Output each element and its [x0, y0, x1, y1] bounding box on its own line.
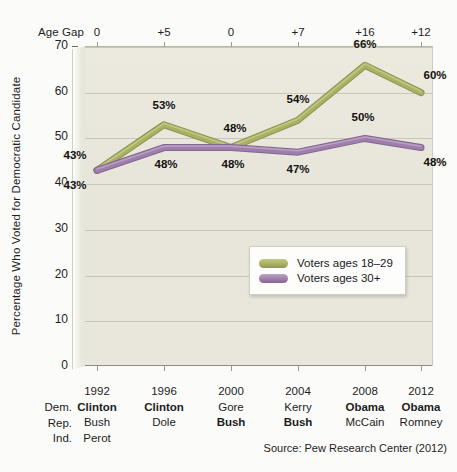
x-column-2004: 2004KerryBush — [261, 384, 335, 446]
chart-figure: Age Gap 0+50+7+16+12 Percentage Who Vote… — [0, 0, 457, 472]
y-tick-30: 30 — [34, 221, 68, 235]
age-gap-value-1992: 0 — [77, 26, 117, 38]
data-label-older-2012: 48% — [413, 156, 457, 168]
age-gap-value-1996: +5 — [144, 26, 184, 38]
x-column-2000: 2000GoreBush — [194, 384, 268, 446]
x-dem-2000: Gore — [194, 400, 268, 416]
x-column-1996: 1996ClintonDole — [127, 384, 201, 446]
x-ind-1992: Perot — [60, 431, 134, 447]
plot-area: 43%53%48%54%66%60%43%48%48%47%50%48% Vot… — [85, 46, 433, 366]
x-column-2012: 2012ObamaRomney — [384, 384, 457, 446]
x-dem-1992: Clinton — [60, 400, 134, 416]
legend-label-older: Voters ages 30+ — [297, 272, 380, 284]
data-label-older-1996: 48% — [144, 158, 188, 170]
age-gap-value-2000: 0 — [211, 26, 251, 38]
x-dem-1996: Clinton — [127, 400, 201, 416]
data-label-older-1992: 43% — [53, 179, 97, 191]
age-gap-value-2004: +7 — [278, 26, 318, 38]
x-dem-2004: Kerry — [261, 400, 335, 416]
y-tick-0: 0 — [34, 358, 68, 372]
x-rep-2012: Romney — [384, 415, 457, 431]
y-tick-70: 70 — [34, 38, 68, 52]
source-note: Source: Pew Research Center (2012) — [264, 442, 447, 454]
y-tick-60: 60 — [34, 84, 68, 98]
data-label-young-2004: 54% — [276, 93, 320, 105]
x-year-2012: 2012 — [384, 384, 457, 400]
legend-item-older[interactable]: Voters ages 30+ — [259, 272, 393, 284]
data-label-young-2008: 66% — [343, 38, 387, 50]
age-gap-value-2008: +16 — [345, 26, 385, 38]
x-column-1992: 1992ClintonBushPerot — [60, 384, 134, 446]
x-year-2000: 2000 — [194, 384, 268, 400]
legend-swatch-older — [259, 274, 288, 283]
data-label-young-2012: 60% — [413, 69, 457, 81]
data-label-young-1996: 53% — [142, 99, 186, 111]
x-rep-2000: Bush — [194, 415, 268, 431]
data-label-young-1992: 43% — [53, 149, 97, 161]
x-year-1996: 1996 — [127, 384, 201, 400]
y-axis-title: Percentage Who Voted for Democratic Cand… — [10, 56, 22, 356]
legend: Voters ages 18–29 Voters ages 30+ — [249, 246, 406, 295]
x-year-2004: 2004 — [261, 384, 335, 400]
y-tick-20: 20 — [34, 267, 68, 281]
x-ind-1996 — [127, 431, 201, 447]
data-label-older-2008: 50% — [341, 111, 385, 123]
data-label-older-2000: 48% — [211, 158, 255, 170]
x-dem-2012: Obama — [384, 400, 457, 416]
plot-shell: 43%53%48%54%66%60%43%48%48%47%50%48% Vot… — [85, 46, 433, 366]
x-ind-2000 — [194, 431, 268, 447]
data-label-older-2004: 47% — [276, 163, 320, 175]
y-tick-50: 50 — [34, 129, 68, 143]
plot-left-bevel — [72, 46, 86, 369]
y-tick-10: 10 — [34, 312, 68, 326]
data-label-young-2000: 48% — [213, 122, 257, 134]
x-year-1992: 1992 — [60, 384, 134, 400]
x-rep-2004: Bush — [261, 415, 335, 431]
x-rep-1996: Dole — [127, 415, 201, 431]
series-lines — [85, 47, 433, 367]
legend-item-young[interactable]: Voters ages 18–29 — [259, 257, 393, 269]
x-rep-1992: Bush — [60, 415, 134, 431]
legend-label-young: Voters ages 18–29 — [297, 257, 393, 269]
legend-swatch-young — [259, 259, 288, 268]
age-gap-value-2012: +12 — [401, 26, 441, 38]
